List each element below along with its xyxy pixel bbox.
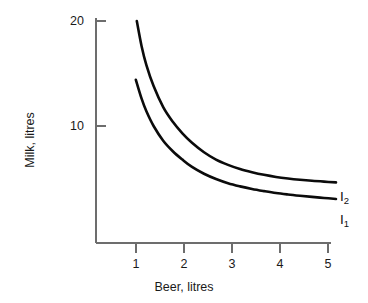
- curve-label-i2-subscript: 2: [344, 195, 349, 206]
- curve-label-i2: I2: [340, 190, 349, 204]
- x-tick-label-5: 5: [325, 258, 332, 271]
- chart-figure: 20 10 1 2 3 4 5 Beer, litres Milk, litre…: [0, 0, 368, 303]
- x-tick-label-3: 3: [229, 258, 236, 271]
- x-tick-label-1: 1: [133, 258, 140, 271]
- x-tick-label-2: 2: [181, 258, 188, 271]
- curve-i2: [137, 21, 336, 182]
- x-axis-title: Beer, litres: [154, 281, 213, 294]
- curve-label-i1-subscript: 1: [344, 218, 349, 229]
- y-axis-title: Milk, litres: [24, 112, 37, 168]
- y-tick-label-10: 10: [60, 120, 84, 133]
- curve-label-i1: I1: [340, 213, 349, 227]
- y-tick-label-20: 20: [60, 15, 84, 28]
- x-tick-label-4: 4: [277, 258, 284, 271]
